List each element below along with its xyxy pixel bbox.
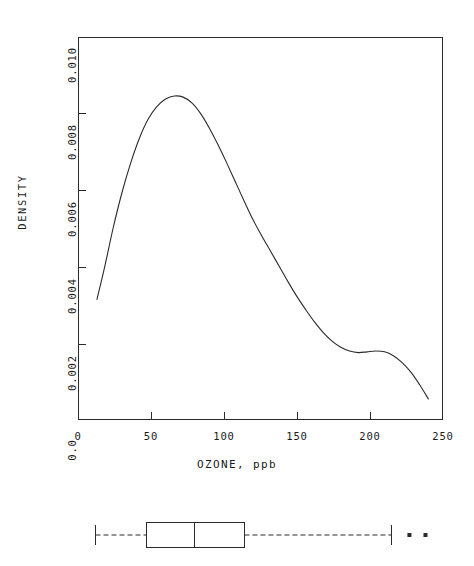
box — [147, 523, 245, 548]
y-tick-label-4: 0.008 — [66, 112, 78, 172]
x-tick-label-1: 50 — [121, 430, 181, 442]
y-tick-label-3: 0.006 — [66, 189, 78, 249]
y-tick-label-0: 0.0 — [66, 420, 78, 480]
boxplot-panel — [0, 500, 474, 566]
x-tick-label-4: 200 — [340, 430, 400, 442]
outlier-point-1 — [407, 533, 411, 537]
density-curve — [97, 96, 428, 399]
x-axis-title: OZONE, ppb — [0, 458, 474, 471]
y-axis-ticks — [78, 113, 86, 344]
x-tick-label-3: 150 — [267, 430, 327, 442]
x-tick-label-5: 250 — [413, 430, 473, 442]
boxplot-graphic — [0, 500, 474, 566]
y-tick-label-2: 0.004 — [66, 266, 78, 326]
density-plot-panel: 0.0 0.002 0.004 0.006 0.008 0.010 DENSIT… — [0, 0, 474, 500]
x-axis-ticks — [151, 412, 370, 420]
density-figure: 0.0 0.002 0.004 0.006 0.008 0.010 DENSIT… — [0, 0, 474, 566]
y-axis-title: DENSITY — [16, 162, 28, 242]
x-tick-label-2: 100 — [194, 430, 254, 442]
y-tick-label-5: 0.010 — [66, 35, 78, 95]
outlier-point-2 — [423, 533, 427, 537]
x-tick-label-0: 0 — [48, 430, 108, 442]
outlier-markers — [407, 533, 427, 537]
y-tick-label-1: 0.002 — [66, 343, 78, 403]
